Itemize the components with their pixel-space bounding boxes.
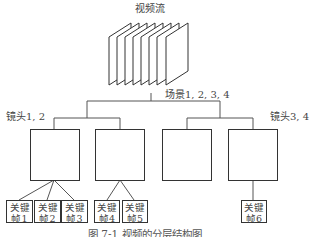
figure-caption: 图 7-1 视频的分层结构图 bbox=[88, 229, 202, 237]
keyframe-label-line1: 关键 bbox=[95, 202, 119, 213]
video-frame-stack bbox=[109, 23, 188, 85]
shot-box-3 bbox=[162, 129, 212, 181]
keyframe-label-line2: 帧5 bbox=[123, 213, 147, 224]
keyframe-label-line1: 关键 bbox=[123, 202, 147, 213]
keyframe-label-line1: 关键 bbox=[35, 202, 60, 213]
keyframe-box-5: 关键 帧5 bbox=[122, 200, 148, 223]
keyframe-box-2: 关键 帧2 bbox=[34, 200, 61, 223]
keyframe-label-line1: 关键 bbox=[62, 202, 87, 213]
keyframe-label-line1: 关键 bbox=[242, 202, 266, 213]
keyframe-box-1: 关键 帧1 bbox=[6, 200, 33, 223]
shot-box-4 bbox=[228, 129, 278, 181]
shot-group-right-label: 镜头3, 4 bbox=[270, 111, 309, 122]
keyframe-box-6: 关键 帧6 bbox=[241, 200, 267, 223]
keyframe-label-line2: 帧3 bbox=[62, 213, 87, 224]
keyframe-box-3: 关键 帧3 bbox=[61, 200, 88, 223]
shot-box-2 bbox=[95, 129, 145, 181]
keyframe-label-line1: 关键 bbox=[7, 202, 32, 213]
keyframe-label-line2: 帧4 bbox=[95, 213, 119, 224]
keyframe-label-line2: 帧2 bbox=[35, 213, 60, 224]
scene-label: 场景1, 2, 3, 4 bbox=[165, 89, 230, 100]
keyframe-label-line2: 帧1 bbox=[7, 213, 32, 224]
video-stream-title: 视频流 bbox=[135, 3, 165, 14]
shot-box-1 bbox=[30, 129, 80, 181]
keyframe-label-line2: 帧6 bbox=[242, 213, 266, 224]
shot-group-left-label: 镜头1, 2 bbox=[6, 111, 45, 122]
keyframe-box-4: 关键 帧4 bbox=[94, 200, 120, 223]
